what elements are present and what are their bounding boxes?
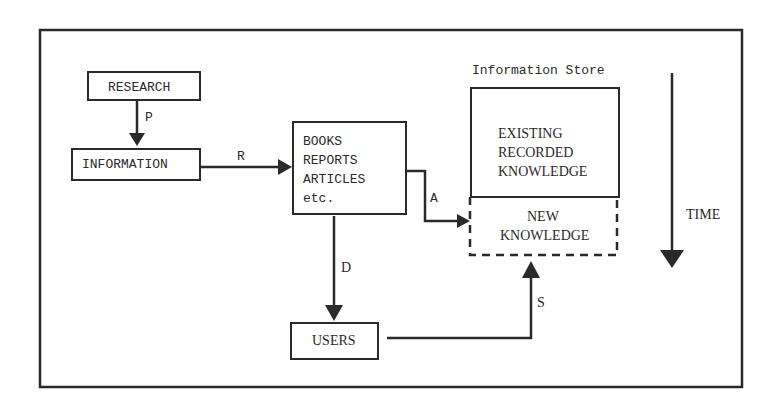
new-knowledge-line-1: NEW bbox=[527, 207, 559, 226]
information-label: INFORMATION bbox=[82, 155, 168, 174]
publications-line-3: ARTICLES bbox=[303, 170, 365, 189]
time-label: TIME bbox=[686, 205, 720, 224]
edge-label-p: P bbox=[145, 108, 153, 127]
arrow-a bbox=[406, 171, 470, 228]
arrow-r bbox=[201, 159, 292, 175]
edge-label-s: S bbox=[537, 293, 545, 312]
edge-label-a: A bbox=[430, 189, 438, 208]
publications-line-2: REPORTS bbox=[303, 151, 358, 170]
edge-label-d: D bbox=[341, 258, 351, 277]
new-knowledge-line-2: KNOWLEDGE bbox=[500, 226, 589, 245]
research-label: RESEARCH bbox=[108, 78, 170, 97]
existing-line-1: EXISTING bbox=[498, 124, 563, 143]
time-arrow bbox=[660, 73, 684, 268]
existing-line-3: KNOWLEDGE bbox=[498, 162, 587, 181]
users-label: USERS bbox=[312, 331, 356, 350]
information-store-title: Information Store bbox=[472, 61, 605, 80]
arrow-s bbox=[387, 261, 540, 338]
publications-line-4: etc. bbox=[303, 189, 334, 208]
existing-line-2: RECORDED bbox=[498, 143, 573, 162]
edge-label-r: R bbox=[237, 147, 245, 166]
publications-line-1: BOOKS bbox=[303, 132, 342, 151]
arrow-p bbox=[129, 100, 145, 146]
